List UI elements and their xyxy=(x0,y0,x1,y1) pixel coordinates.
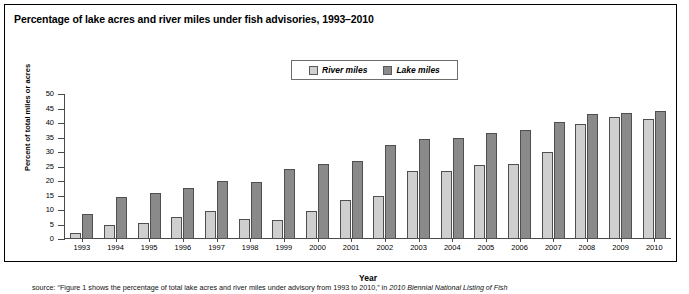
bar-lake-miles-2002 xyxy=(385,145,396,239)
x-axis-tick-mark xyxy=(351,238,352,242)
bar-lake-miles-2005 xyxy=(486,133,497,239)
x-axis-tick-2010: 2010 xyxy=(637,238,671,256)
bar-lake-miles-1997 xyxy=(217,181,228,239)
y-axis-tick-label: 45 xyxy=(29,105,54,112)
x-axis-tick-1993: 1993 xyxy=(65,238,99,256)
x-axis-tick-label: 2005 xyxy=(478,243,495,252)
y-axis-tick-mark xyxy=(58,225,65,226)
y-axis-tick-label: 20 xyxy=(29,177,54,184)
source-prefix: source: xyxy=(32,283,58,292)
bar-group-2000 xyxy=(301,94,335,239)
x-axis-tick-label: 1994 xyxy=(107,243,124,252)
bar-group-2010 xyxy=(637,94,671,239)
y-axis-tick-mark xyxy=(58,167,65,168)
x-axis-tick-label: 2006 xyxy=(511,243,528,252)
y-axis-tick-mark xyxy=(58,239,65,240)
x-axis-tick-2004: 2004 xyxy=(435,238,469,256)
source-note: source: “Figure 1 shows the percentage o… xyxy=(32,283,682,292)
y-axis-tick-label: 5 xyxy=(29,221,54,228)
x-axis-tick-mark xyxy=(284,238,285,242)
bar-group-2009 xyxy=(604,94,638,239)
y-axis-tick-label: 35 xyxy=(29,134,54,141)
x-axis-tick-mark xyxy=(520,238,521,242)
y-axis-tick-mark xyxy=(58,152,65,153)
x-axis-tick-1995: 1995 xyxy=(132,238,166,256)
x-axis-tick-1998: 1998 xyxy=(233,238,267,256)
x-axis-tick-label: 2010 xyxy=(646,243,663,252)
x-axis-tick-2002: 2002 xyxy=(368,238,402,256)
bar-river-miles-2004 xyxy=(441,171,452,239)
bar-lake-miles-2004 xyxy=(453,138,464,240)
x-axis-tick-2009: 2009 xyxy=(604,238,638,256)
bar-group-2002 xyxy=(368,94,402,239)
x-axis-tick-2001: 2001 xyxy=(334,238,368,256)
bar-river-miles-1994 xyxy=(104,225,115,240)
bar-lake-miles-1993 xyxy=(82,214,93,239)
bar-lake-miles-1998 xyxy=(251,182,262,239)
bar-lake-miles-2000 xyxy=(318,164,329,239)
bar-group-1995 xyxy=(132,94,166,239)
bar-group-1998 xyxy=(233,94,267,239)
bar-group-1997 xyxy=(200,94,234,239)
y-axis-tick-label: 25 xyxy=(29,163,54,170)
x-axis-tick-label: 1995 xyxy=(141,243,158,252)
x-axis-tick-label: 2003 xyxy=(410,243,427,252)
bar-river-miles-2006 xyxy=(508,164,519,239)
x-axis-tick-label: 2009 xyxy=(612,243,629,252)
y-axis-tick-label: 15 xyxy=(29,192,54,199)
bar-group-2007 xyxy=(536,94,570,239)
bar-group-1993 xyxy=(65,94,99,239)
x-axis-tick-2006: 2006 xyxy=(503,238,537,256)
x-axis-tick-mark xyxy=(116,238,117,242)
bar-lake-miles-1996 xyxy=(183,188,194,239)
bar-river-miles-1999 xyxy=(272,220,283,239)
bar-river-miles-1997 xyxy=(205,211,216,239)
x-axis-tick-mark xyxy=(82,238,83,242)
bar-lake-miles-2008 xyxy=(587,114,598,239)
x-axis-tick-mark xyxy=(452,238,453,242)
x-axis-tick-1999: 1999 xyxy=(267,238,301,256)
x-axis-tick-1997: 1997 xyxy=(200,238,234,256)
x-axis-tick-label: 1998 xyxy=(242,243,259,252)
y-axis-tick-mark xyxy=(58,210,65,211)
y-axis-tick-mark xyxy=(58,181,65,182)
y-axis-tick-label: 0 xyxy=(29,235,54,242)
bar-river-miles-1996 xyxy=(171,217,182,239)
x-axis-tick-mark xyxy=(419,238,420,242)
y-axis-tick-mark xyxy=(58,94,65,95)
bar-group-2005 xyxy=(469,94,503,239)
bar-lake-miles-2003 xyxy=(419,139,430,239)
bar-river-miles-2003 xyxy=(407,171,418,239)
x-axis-tick-mark xyxy=(250,238,251,242)
x-axis-tick-mark xyxy=(183,238,184,242)
bar-lake-miles-2009 xyxy=(621,113,632,239)
x-axis-tick-label: 2004 xyxy=(444,243,461,252)
figure-frame: Percentage of lake acres and river miles… xyxy=(4,4,677,262)
y-axis-tick-mark xyxy=(58,109,65,110)
x-axis-tick-label: 2000 xyxy=(309,243,326,252)
x-axis-tick-mark xyxy=(621,238,622,242)
bar-river-miles-2001 xyxy=(340,200,351,239)
bar-series-container xyxy=(65,94,671,239)
x-axis-tick-2005: 2005 xyxy=(469,238,503,256)
y-axis-tick-mark xyxy=(58,138,65,139)
bar-river-miles-2000 xyxy=(306,211,317,239)
bar-river-miles-1995 xyxy=(138,223,149,239)
x-axis-tick-label: 1996 xyxy=(175,243,192,252)
x-axis-ticks: 1993199419951996199719981999200020012002… xyxy=(65,238,671,256)
x-axis-tick-label: 1993 xyxy=(73,243,90,252)
bar-lake-miles-2007 xyxy=(554,122,565,239)
bar-river-miles-1998 xyxy=(239,219,250,239)
x-axis-tick-2007: 2007 xyxy=(536,238,570,256)
x-axis-tick-mark xyxy=(385,238,386,242)
bar-lake-miles-2001 xyxy=(352,161,363,239)
x-axis-tick-mark xyxy=(587,238,588,242)
x-axis-title: Year xyxy=(63,273,673,283)
bar-river-miles-2009 xyxy=(609,117,620,239)
bar-lake-miles-1995 xyxy=(150,193,161,239)
source-quote: “Figure 1 shows the percentage of total … xyxy=(58,283,390,292)
x-axis-tick-label: 2002 xyxy=(377,243,394,252)
y-axis-tick-label: 30 xyxy=(29,148,54,155)
bar-group-1994 xyxy=(99,94,133,239)
x-axis-tick-mark xyxy=(149,238,150,242)
